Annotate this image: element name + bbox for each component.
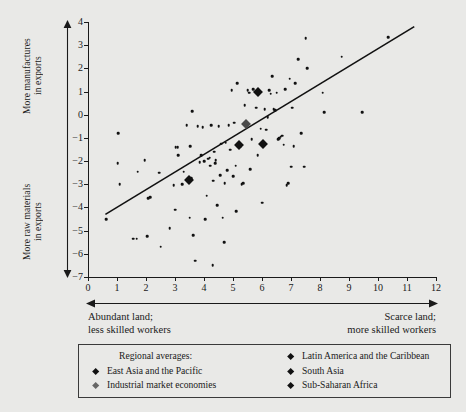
diamond-icon — [92, 382, 100, 390]
x-tick-label: 7 — [289, 283, 294, 293]
y-axis-annotations: More manufactures in exports More raw ma… — [22, 18, 64, 280]
y-tick-label: −5 — [72, 226, 83, 236]
diamond-icon — [287, 367, 295, 375]
y-tick-label: −1 — [72, 133, 83, 143]
legend-item-label: Latin America and the Caribbean — [302, 350, 429, 361]
x-tick — [233, 277, 234, 281]
x-tick — [88, 277, 89, 281]
regional-average-marker — [253, 87, 263, 97]
legend-item-label: East Asia and the Pacific — [107, 365, 202, 376]
legend-item-sub-saharan-africa: Sub-Saharan Africa — [284, 378, 449, 393]
x-tick — [146, 277, 147, 281]
x-tick — [320, 277, 321, 281]
y-axis-bottom-label: More raw materials in exports — [22, 166, 64, 278]
legend-item-east-asia-and-the-pacific: East Asia and the Pacific — [89, 364, 284, 379]
regional-average-marker — [234, 140, 244, 150]
x-tick-label: 11 — [402, 283, 412, 293]
legend-column-left: Regional averages: East Asia and the Pac… — [89, 349, 284, 393]
x-tick — [117, 277, 118, 281]
x-tick-label: 4 — [202, 283, 207, 293]
x-tick — [378, 277, 379, 281]
legend-item-label: Sub-Saharan Africa — [302, 379, 377, 390]
y-tick-label: −3 — [72, 179, 83, 189]
x-tick-label: 3 — [173, 283, 178, 293]
y-tick-label: 1 — [78, 87, 83, 97]
legend-item-latin-america-and-the-caribbean: Latin America and the Caribbean — [284, 349, 449, 364]
legend-item-industrial-market-economies: Industrial market economies — [89, 378, 284, 393]
y-tick-label: 4 — [78, 17, 83, 27]
legend-item-south-asia: South Asia — [284, 364, 449, 379]
legend-item-label: South Asia — [302, 365, 344, 376]
x-axis-right-label: Scarce land; more skilled workers — [347, 311, 436, 336]
x-tick-label: 2 — [144, 283, 149, 293]
scatter-plot-figure: More manufactures in exports More raw ma… — [0, 0, 466, 412]
y-tick-label: −4 — [72, 202, 83, 212]
legend-column-right: Latin America and the Caribbean South As… — [284, 349, 449, 393]
x-tick — [204, 277, 205, 281]
diamond-icon — [287, 382, 295, 390]
x-tick-label: 5 — [231, 283, 236, 293]
x-tick-label: 9 — [347, 283, 352, 293]
legend-item-label: Industrial market economies — [107, 379, 216, 390]
regional-average-marker — [258, 139, 268, 149]
x-tick — [349, 277, 350, 281]
y-tick-label: 0 — [78, 110, 83, 120]
y-tick-label: 3 — [78, 40, 83, 50]
x-tick — [436, 277, 437, 281]
x-tick — [407, 277, 408, 281]
x-axis-left-label: Abundant land; less skilled workers — [88, 311, 171, 336]
regional-average-marker — [241, 119, 251, 129]
y-axis-direction-arrow — [63, 20, 72, 278]
legend: Regional averages: East Asia and the Pac… — [78, 344, 451, 398]
x-tick-label: 12 — [431, 283, 441, 293]
diamond-icon — [287, 353, 295, 361]
plot-area: 43210−1−2−3−4−5−6−7 0123456789101112 — [88, 22, 436, 277]
y-tick-label: 2 — [78, 63, 83, 73]
y-tick-label: −6 — [72, 249, 83, 259]
x-tick-label: 0 — [86, 283, 91, 293]
y-tick-label: −7 — [72, 272, 83, 282]
regional-average-marker — [184, 175, 194, 185]
y-tick-label: −2 — [72, 156, 83, 166]
regional-average-markers-layer — [88, 22, 436, 277]
diamond-icon — [92, 367, 100, 375]
x-tick — [262, 277, 263, 281]
x-tick-label: 10 — [373, 283, 383, 293]
x-tick — [291, 277, 292, 281]
x-axis-direction-arrow — [86, 299, 438, 308]
x-tick-label: 1 — [115, 283, 120, 293]
y-axis-top-label: More manufactures in exports — [22, 20, 64, 132]
x-tick-label: 8 — [318, 283, 323, 293]
x-tick-label: 6 — [260, 283, 265, 293]
x-tick — [175, 277, 176, 281]
legend-heading: Regional averages: — [89, 349, 284, 364]
